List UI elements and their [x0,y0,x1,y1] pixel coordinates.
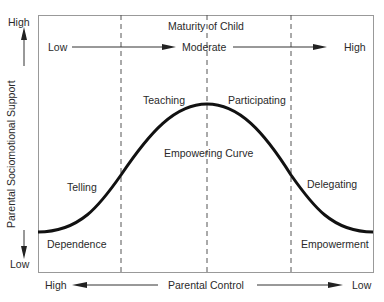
stage-teaching: Teaching [143,95,185,106]
arrow-right-icon [162,44,176,50]
stage-telling: Telling [67,182,97,193]
maturity-high-label: High [344,42,366,53]
arrow-right-icon [313,44,327,50]
y-axis-high-label: High [8,17,30,28]
plot-frame [39,16,374,273]
maturity-low-label: Low [48,42,67,53]
control-low-label: Low [352,280,371,291]
y-axis-label: Parental Sociomotional Support [5,80,17,228]
control-high-label: High [45,280,67,291]
y-axis-low-label: Low [10,259,29,270]
chart-title: Maturity of Child [168,21,244,32]
curve-label: Empowering Curve [164,148,253,159]
empowerment-label: Empowerment [301,239,369,250]
x-axis-label: Parental Control [168,280,244,291]
stage-participating: Participating [228,95,286,106]
arrow-left-icon [72,282,87,288]
maturity-moderate-label: Moderate [182,42,226,53]
arrow-up-icon [21,27,27,40]
dependence-label: Dependence [47,239,107,250]
empowering-curve [38,104,373,232]
stage-delegating: Delegating [307,179,357,190]
arrow-right-icon [328,282,343,288]
